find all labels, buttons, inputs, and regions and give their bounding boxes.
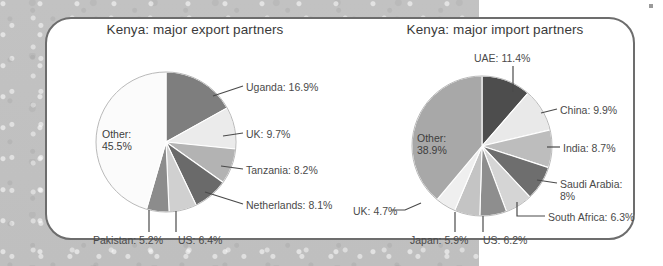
import-callout-uk: UK: 4.7% [353, 205, 397, 217]
export-callout-us: US: 6.4% [178, 234, 222, 246]
import-slice-label-other: Other:38.9% [417, 132, 447, 156]
leader-line-china [541, 109, 557, 113]
export-pie-svg [45, 0, 345, 266]
export-callout-netherlands: Netherlands: 8.1% [246, 199, 332, 211]
export-pie-chart: Kenya: major export partners Other:45.5%… [45, 0, 345, 266]
import-callout-india: India: 8.7% [563, 142, 616, 154]
leader-line-uganda [213, 86, 243, 96]
import-pie-svg [345, 0, 645, 266]
export-callout-uk: UK: 9.7% [246, 128, 290, 140]
import-callout-china: China: 9.9% [560, 104, 617, 116]
export-callout-tanzania: Tanzania: 8.2% [246, 164, 318, 176]
import-callout-saudi-arabia: Saudi Arabia:8% [560, 178, 622, 202]
import-pie-chart: Kenya: major import partners Other:38.9%… [345, 0, 645, 266]
import-callout-japan: Japan: 5.9% [410, 234, 468, 246]
import-callout-south-africa: South Africa: 6.3% [548, 211, 634, 223]
scan-speck [649, 4, 653, 8]
export-callout-uganda: Uganda: 16.9% [246, 81, 318, 93]
import-callout-uae: UAE: 11.4% [474, 52, 530, 64]
export-callout-pakistan: Pakistan: 5.2% [93, 234, 163, 246]
import-callout-us: US: 6.2% [483, 234, 527, 246]
leader-line-netherlands [205, 192, 243, 204]
export-slice-label-other: Other:45.5% [102, 128, 132, 152]
